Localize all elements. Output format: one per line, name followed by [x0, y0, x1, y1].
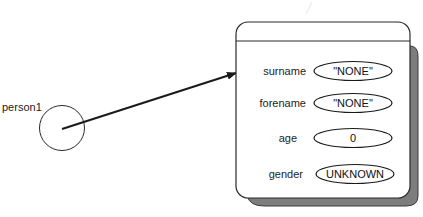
field-value: "NONE"	[333, 97, 373, 109]
field-label: surname	[263, 65, 306, 77]
reference-arrow	[62, 73, 236, 129]
field-label: gender	[269, 168, 304, 180]
field-value: 0	[350, 132, 356, 144]
faint-mark	[306, 2, 312, 14]
field-value: "NONE"	[333, 65, 373, 77]
field-label: forename	[260, 97, 306, 109]
field-label: age	[279, 132, 297, 144]
field-value: UNKNOWN	[326, 168, 384, 180]
reference-label: person1	[2, 101, 42, 113]
object-reference-diagram: person1 surname "NONE" forename "NONE" a…	[0, 0, 423, 217]
